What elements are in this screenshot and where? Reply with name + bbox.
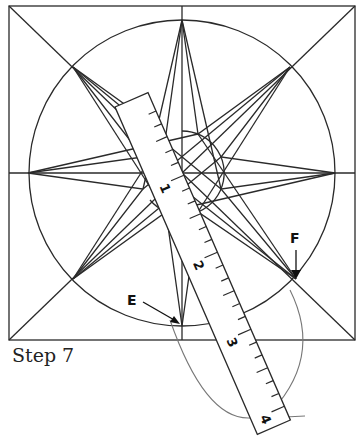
step-caption: Step 7 <box>12 344 74 366</box>
ruler: 1 2 3 4 <box>115 93 290 435</box>
star-construction-diagram: 1 2 3 4 E F <box>0 0 357 440</box>
svg-text:F: F <box>290 230 300 246</box>
svg-text:E: E <box>127 292 137 308</box>
